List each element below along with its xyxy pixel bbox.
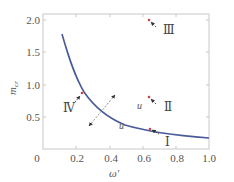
x-tick-label: 0 bbox=[34, 152, 40, 164]
region-label-III: Ⅲ bbox=[163, 23, 175, 37]
point-IV bbox=[75, 92, 83, 102]
u-label-lower: u bbox=[119, 120, 124, 131]
region-label-II: Ⅱ bbox=[164, 100, 172, 114]
plot-frame bbox=[43, 14, 209, 149]
x-tick-label: 0.4 bbox=[104, 152, 118, 164]
critical-curve bbox=[62, 34, 209, 138]
x-tick-label: 0.2 bbox=[70, 152, 84, 164]
x-tick-marks bbox=[76, 14, 176, 149]
x-axis-label: ω' bbox=[109, 167, 120, 179]
x-tick-label: 1.0 bbox=[202, 152, 216, 164]
point-III bbox=[148, 19, 156, 27]
region-label-I: Ⅰ bbox=[165, 135, 170, 149]
svg-text:mcr: mcr bbox=[6, 81, 20, 95]
y-tick-label: 1.5 bbox=[26, 46, 40, 58]
y-tick-label: 2.0 bbox=[26, 14, 40, 26]
region-label-IV: Ⅳ bbox=[63, 101, 76, 115]
y-tick-label: 0.5 bbox=[26, 111, 40, 123]
point-II bbox=[148, 96, 156, 104]
x-tick-label: 0.8 bbox=[170, 152, 184, 164]
chart: 2.0 1.5 1.0 0.5 0 0.2 0.4 0.6 0.8 1.0 ω'… bbox=[0, 0, 234, 182]
x-tick-label: 0.6 bbox=[137, 152, 151, 164]
y-tick-label: 1.0 bbox=[26, 79, 40, 91]
y-axis-label: mcr bbox=[6, 81, 20, 95]
u-label-upper: u bbox=[137, 100, 142, 111]
